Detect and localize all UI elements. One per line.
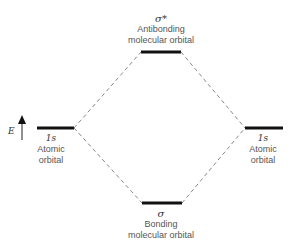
antibonding-line2: molecular orbital xyxy=(121,35,201,46)
energy-label: E xyxy=(8,126,15,136)
left-atomic-line2: orbital xyxy=(26,155,76,166)
left-atomic-label: 1s Atomic orbital xyxy=(26,133,76,166)
bonding-label: σ Bonding molecular orbital xyxy=(121,208,201,241)
arrow-up-icon xyxy=(18,115,26,124)
bonding-line2: molecular orbital xyxy=(121,230,201,241)
bonding-line1: Bonding xyxy=(121,219,201,230)
antibonding-label: σ* Antibonding molecular orbital xyxy=(121,13,201,46)
correlation-lines xyxy=(74,52,245,203)
mo-diagram: E σ* Antibonding molecular orbital σ Bon… xyxy=(0,0,297,248)
bonding-symbol: σ xyxy=(121,208,201,219)
right-atomic-label: 1s Atomic orbital xyxy=(238,133,288,166)
right-atomic-line1: Atomic xyxy=(238,144,288,155)
left-atomic-symbol: 1s xyxy=(26,133,76,144)
antibonding-line1: Antibonding xyxy=(121,24,201,35)
right-atomic-symbol: 1s xyxy=(238,133,288,144)
left-atomic-line1: Atomic xyxy=(26,144,76,155)
right-atomic-line2: orbital xyxy=(238,155,288,166)
antibonding-symbol: σ* xyxy=(121,13,201,24)
